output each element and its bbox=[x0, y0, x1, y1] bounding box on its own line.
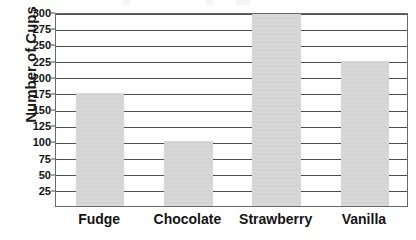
y-tick-label: 100 bbox=[33, 137, 51, 148]
y-tick-label: 150 bbox=[33, 105, 51, 116]
y-tick-label: 200 bbox=[33, 72, 51, 83]
y-tick-label: 50 bbox=[39, 169, 51, 180]
plot-area bbox=[55, 13, 408, 207]
x-axis-label: Fudge bbox=[78, 211, 120, 227]
cropped-title-remnant bbox=[110, 0, 310, 5]
bar-chart-figure: Number of Cups 2550751001251501752002252… bbox=[0, 0, 416, 240]
y-axis-tick-labels: 255075100125150175200225250275300 bbox=[18, 13, 51, 207]
x-axis-category-labels: FudgeChocolateStrawberryVanilla bbox=[55, 211, 408, 235]
y-tick-label: 175 bbox=[33, 88, 51, 99]
bar-texture bbox=[76, 93, 125, 206]
bar-texture bbox=[164, 141, 213, 206]
bar bbox=[252, 13, 301, 206]
x-axis-label: Vanilla bbox=[342, 211, 386, 227]
y-tick-label: 225 bbox=[33, 56, 51, 67]
x-axis-label: Strawberry bbox=[239, 211, 312, 227]
y-tick-label: 275 bbox=[33, 24, 51, 35]
y-tick-label: 125 bbox=[33, 121, 51, 132]
y-tick-label: 300 bbox=[33, 8, 51, 19]
bar bbox=[76, 93, 125, 206]
bar-texture bbox=[341, 61, 390, 207]
x-axis-label: Chocolate bbox=[154, 211, 222, 227]
bars-layer bbox=[56, 14, 407, 206]
bar-texture bbox=[252, 13, 301, 206]
bar bbox=[341, 61, 390, 207]
bar bbox=[164, 141, 213, 206]
y-tick-label: 250 bbox=[33, 40, 51, 51]
y-tick-label: 75 bbox=[39, 153, 51, 164]
y-tick-label: 25 bbox=[39, 185, 51, 196]
